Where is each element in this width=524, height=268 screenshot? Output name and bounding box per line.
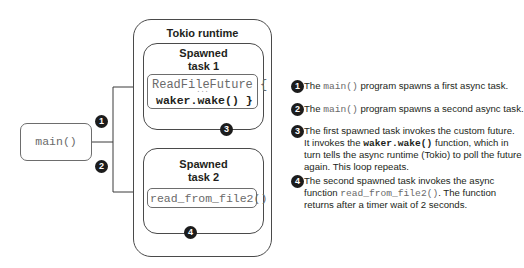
legend-code: waker.wake()	[363, 138, 432, 149]
legend-item-3-line-1: The first spawned task invokes the custo…	[304, 125, 515, 137]
legend-code: read_from_file2()	[340, 188, 438, 199]
legend-text: program spawns a first async task.	[358, 80, 508, 91]
task1-title-line2: task 1	[144, 60, 263, 73]
legend-text: The	[304, 103, 323, 114]
legend-text: The first spawned task invokes the custo…	[304, 125, 515, 136]
tokio-runtime-title: Tokio runtime	[134, 27, 271, 40]
legend-text: function, which in	[432, 137, 508, 148]
legend-badge-4: 4	[291, 175, 304, 188]
legend-code: main()	[323, 81, 358, 92]
main-box: main()	[20, 123, 92, 161]
legend-text: It invokes the	[304, 137, 363, 148]
legend-badge-3: 3	[291, 125, 304, 138]
read-from-file2-code-box: read_from_file2()	[147, 188, 257, 208]
legend-item-2-line: The main() program spawns a second async…	[304, 103, 524, 116]
legend-item-3-line-4: again. This loop repeats.	[304, 161, 409, 173]
legend-item-4-line-3: returns after a timer wait of 2 seconds.	[304, 199, 467, 211]
legend-text: again. This loop repeats.	[304, 161, 409, 172]
badge-4: 4	[184, 226, 197, 239]
legend-item-4-line-1: The second spawned task invokes the asyn…	[304, 175, 494, 187]
badge-3: 3	[220, 123, 233, 136]
legend-text: program spawns a second async task.	[358, 103, 524, 114]
task2-title-line1: Spawned	[144, 158, 263, 171]
badge-2: 2	[95, 160, 108, 173]
legend-text: The	[304, 80, 323, 91]
legend-text: returns after a timer wait of 2 seconds.	[304, 199, 467, 210]
badge-1: 1	[95, 115, 108, 128]
code-read-from-file2: read_from_file2()	[150, 192, 267, 205]
legend-code: main()	[323, 104, 358, 115]
legend-text: turn tells the async runtime (Tokio) to …	[304, 149, 522, 160]
code-waker-wake: waker.wake() }	[156, 94, 253, 107]
code-ellipsis: ...	[148, 86, 257, 94]
legend-badge-1: 1	[291, 80, 304, 93]
legend-badge-2: 2	[291, 103, 304, 116]
task1-title-line1: Spawned	[144, 47, 263, 60]
legend-text: . The function	[438, 187, 496, 198]
main-label: main()	[21, 135, 91, 148]
legend-item-3-line-3: turn tells the async runtime (Tokio) to …	[304, 149, 522, 161]
legend-item-1-line: The main() program spawns a first async …	[304, 80, 508, 93]
read-file-future-code-box: ReadFileFuture { ... waker.wake() }	[147, 74, 258, 109]
legend-text: function	[304, 187, 340, 198]
task2-title-line2: task 2	[144, 171, 263, 184]
legend-text: The second spawned task invokes the asyn…	[304, 175, 494, 186]
